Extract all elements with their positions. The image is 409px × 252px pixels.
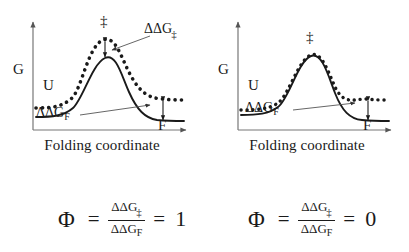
annotation-ddg-f-phi-0: ΔΔGF: [245, 101, 279, 117]
result-equals-1: =: [153, 209, 165, 230]
x-axis-label-phi-1: Folding coordinate: [0, 138, 204, 153]
leader-ddg-f-phi-0: [293, 103, 355, 110]
annotation-ddg-ts-sub-phi-1: ‡: [171, 28, 177, 40]
x-axis-label-phi-0: Folding coordinate: [205, 138, 409, 153]
state-label-transition-phi-0: ‡: [306, 30, 314, 45]
numerator-sub-0: ‡: [326, 206, 332, 218]
state-label-transition-phi-1: ‡: [100, 14, 108, 29]
denominator-text-0: ΔΔG: [301, 221, 327, 236]
phi-symbol-1: Φ: [58, 208, 75, 231]
annotation-ddg-f-phi-1: ΔΔGF: [36, 106, 70, 122]
fraction-numerator-0: ΔΔG‡: [298, 200, 335, 219]
denominator-sub-0: F: [327, 226, 333, 237]
phi-symbol-0: Φ: [248, 208, 265, 231]
annotation-ddg-f-sub-phi-1: F: [64, 111, 70, 122]
state-label-folded-phi-1: F: [158, 118, 166, 133]
formula-phi-1: Φ = ΔΔG‡ ΔΔGF = 1: [58, 186, 186, 252]
panel-phi-0: G U ‡ F ΔΔGF Folding coordinate: [205, 0, 409, 180]
panel-phi-1: G U ‡ F ΔΔG‡ ΔΔGF Folding coordinate: [0, 0, 204, 180]
fraction-numerator-1: ΔΔG‡: [108, 200, 145, 219]
result-equals-0: =: [343, 209, 355, 230]
state-label-folded-phi-0: F: [363, 118, 371, 133]
formula-phi-0: Φ = ΔΔG‡ ΔΔGF = 0: [248, 186, 376, 252]
equals-sign-0: =: [278, 209, 290, 230]
fraction-0: ΔΔG‡ ΔΔGF: [298, 200, 336, 237]
result-value-0: 0: [365, 208, 376, 230]
annotation-ddg-f-text-phi-0: ΔΔG: [245, 100, 273, 115]
numerator-sub-1: ‡: [136, 206, 142, 218]
plot-area-phi-0: [205, 0, 409, 155]
curve-mutant-phi-1: [36, 39, 184, 108]
annotation-ddg-ts-text-phi-1: ΔΔG: [144, 21, 172, 36]
fraction-1: ΔΔG‡ ΔΔGF: [108, 200, 146, 237]
annotation-ddg-ts-phi-1: ΔΔG‡: [144, 22, 177, 40]
denominator-text-1: ΔΔG: [111, 221, 137, 236]
formula-row: Φ = ΔΔG‡ ΔΔGF = 1 Φ = ΔΔG‡ ΔΔGF = 0: [0, 186, 409, 252]
numerator-text-1: ΔΔG: [111, 199, 137, 214]
fraction-denominator-1: ΔΔGF: [108, 221, 146, 238]
numerator-text-0: ΔΔG: [301, 199, 327, 214]
fraction-denominator-0: ΔΔGF: [298, 221, 336, 238]
phi-value-figure: G U ‡ F ΔΔG‡ ΔΔGF Folding coordinate: [0, 0, 409, 252]
annotation-ddg-f-text-phi-1: ΔΔG: [36, 105, 64, 120]
equals-sign-1: =: [88, 209, 100, 230]
state-label-unfolded-phi-0: U: [248, 78, 259, 93]
annotation-ddg-f-sub-phi-0: F: [273, 106, 279, 117]
y-axis-label-phi-1: G: [13, 62, 24, 77]
denominator-sub-1: F: [137, 226, 143, 237]
y-axis-label-phi-0: G: [218, 62, 229, 77]
result-value-1: 1: [175, 208, 186, 230]
state-label-unfolded-phi-1: U: [43, 78, 54, 93]
